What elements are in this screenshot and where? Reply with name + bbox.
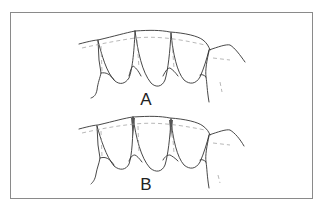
panel-label-b: B <box>136 176 156 193</box>
teeth-illustration <box>0 0 322 213</box>
panel-a-drawing <box>79 30 245 102</box>
panel-b-dashed <box>82 123 230 183</box>
panel-b-drawing <box>79 116 244 188</box>
panel-label-a: A <box>136 91 156 108</box>
